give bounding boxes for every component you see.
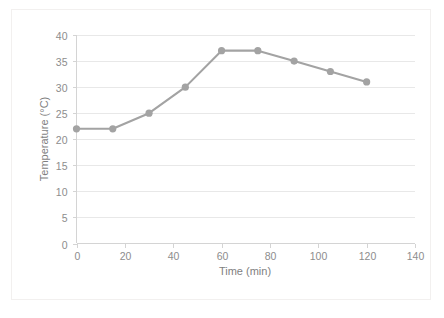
y-tick-label: 10 bbox=[56, 186, 68, 198]
y-tick-label: 30 bbox=[56, 82, 68, 94]
y-axis-tick-labels: 0510152025303540 bbox=[56, 30, 68, 251]
y-tick-label: 0 bbox=[62, 239, 68, 251]
y-tick-marks bbox=[73, 36, 77, 245]
data-point bbox=[73, 125, 80, 132]
x-axis-tick-labels: 020406080100120140 bbox=[75, 250, 425, 262]
data-point bbox=[254, 47, 261, 54]
data-point bbox=[363, 78, 370, 85]
x-tick-label: 0 bbox=[75, 250, 81, 262]
data-point bbox=[109, 125, 116, 132]
x-tick-label: 40 bbox=[168, 250, 180, 262]
data-point bbox=[145, 110, 152, 117]
data-point bbox=[327, 68, 334, 75]
x-tick-marks bbox=[78, 244, 416, 248]
y-tick-label: 40 bbox=[56, 30, 68, 42]
x-tick-label: 20 bbox=[120, 250, 132, 262]
y-tick-label: 25 bbox=[56, 108, 68, 120]
y-axis-title: Temperature (°C) bbox=[38, 97, 50, 181]
x-tick-label: 100 bbox=[310, 250, 328, 262]
data-point bbox=[182, 84, 189, 91]
x-axis-title: Time (min) bbox=[219, 265, 271, 277]
y-tick-label: 5 bbox=[62, 212, 68, 224]
series-line-temperature bbox=[77, 51, 367, 129]
x-tick-label: 120 bbox=[359, 250, 377, 262]
data-point bbox=[218, 47, 225, 54]
gridlines bbox=[77, 36, 416, 218]
data-point bbox=[291, 57, 298, 64]
y-tick-label: 15 bbox=[56, 160, 68, 172]
y-tick-label: 35 bbox=[56, 56, 68, 68]
x-tick-label: 140 bbox=[407, 250, 425, 262]
line-chart: 0510152025303540 020406080100120140 Time… bbox=[0, 0, 444, 318]
series-markers-temperature bbox=[73, 47, 370, 132]
y-tick-label: 20 bbox=[56, 134, 68, 146]
x-tick-label: 60 bbox=[217, 250, 229, 262]
x-tick-label: 80 bbox=[265, 250, 277, 262]
